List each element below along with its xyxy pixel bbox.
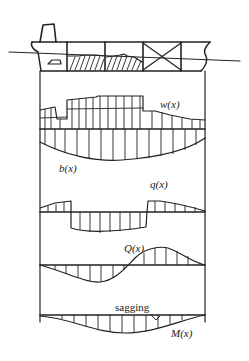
- load-plot: q(x): [40, 178, 205, 233]
- weight-label: w(x): [160, 98, 180, 111]
- load-label: q(x): [150, 178, 168, 191]
- diagram-canvas: w(x) b(x) q(x) Q: [0, 0, 249, 361]
- shear-plot: Q(x): [40, 242, 205, 282]
- moment-label: M(x): [170, 327, 193, 340]
- buoyancy-label: b(x): [59, 162, 77, 175]
- sagging-label: sagging: [115, 301, 150, 313]
- shear-label: Q(x): [124, 242, 144, 255]
- cargo-hatch-1: [68, 55, 104, 70]
- ship-profile: [9, 24, 240, 71]
- moment-plot: sagging M(x): [40, 301, 205, 340]
- weight-buoyancy-plot: w(x) b(x): [40, 96, 205, 175]
